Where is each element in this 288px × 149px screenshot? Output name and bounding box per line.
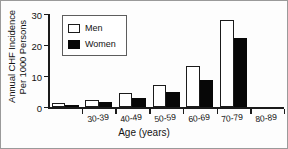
chart-figure: Annual CHF Incidence Per 1000 Persons 30…: [0, 0, 288, 149]
bar-women-30-39: [99, 102, 113, 107]
x-tick-label-30-39: 30-39: [86, 112, 109, 125]
x-tick-label-80-89: 80-89: [255, 112, 278, 125]
y-tick-label-10: 10: [31, 71, 42, 82]
bar-women-50-59: [166, 92, 180, 108]
bar-men-40-49: [119, 93, 133, 107]
bar-men-30-39: [85, 100, 99, 107]
legend: Men Women: [62, 15, 127, 56]
bar-men-60-69: [186, 66, 200, 107]
y-axis-title: Annual CHF Incidence Per 1000 Persons: [2, 5, 32, 109]
y-axis-title-line-2: Per 1000 Persons: [17, 20, 28, 94]
x-tick-7: [284, 109, 285, 114]
y-tick-label-20: 20: [31, 40, 42, 51]
x-axis-title: Age (years): [1, 127, 287, 138]
bar-men-50-59: [153, 85, 167, 107]
legend-item-women: Women: [68, 36, 126, 52]
x-axis-line: [48, 107, 284, 109]
y-tick-label-30: 30: [31, 9, 42, 20]
bar-men-20-29: [52, 103, 66, 108]
legend-label-women: Women: [85, 39, 116, 49]
bar-women-20-29: [65, 105, 79, 107]
legend-swatch-women-icon: [68, 40, 80, 49]
legend-label-men: Men: [85, 23, 103, 33]
y-tick-label-0: 0: [37, 102, 42, 113]
bar-men-70-79: [220, 20, 234, 107]
x-tick-label-60-69: 60-69: [187, 112, 210, 125]
bar-women-40-49: [132, 98, 146, 108]
legend-swatch-men-icon: [68, 24, 80, 33]
x-tick-label-50-59: 50-59: [154, 112, 177, 125]
bar-women-60-69: [200, 80, 214, 107]
y-axis-title-line-1: Annual CHF Incidence: [6, 10, 17, 103]
x-axis-tick-labels: 30-3940-4950-5960-6970-7980-89: [48, 111, 284, 127]
x-tick-label-70-79: 70-79: [221, 112, 244, 125]
bar-women-70-79: [234, 38, 248, 107]
x-tick-label-40-49: 40-49: [120, 112, 143, 125]
legend-item-men: Men: [68, 20, 126, 36]
